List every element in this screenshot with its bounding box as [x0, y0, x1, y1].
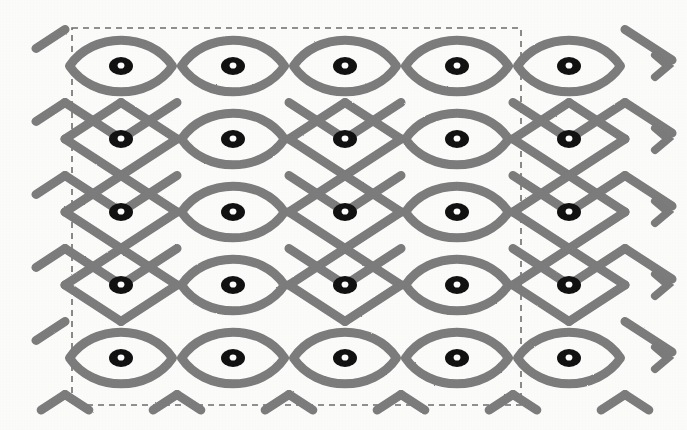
dot-inner-highlight: [454, 62, 461, 68]
dot-inner-highlight: [118, 208, 125, 214]
dot-inner-highlight: [230, 208, 237, 214]
kolam-dot: [557, 130, 581, 148]
kolam-diagram-svg: [0, 0, 687, 430]
kolam-dot: [109, 276, 133, 294]
kolam-dot: [333, 349, 357, 367]
kolam-dot: [221, 130, 245, 148]
kolam-dot: [445, 57, 469, 75]
kolam-dot: [557, 276, 581, 294]
dot-inner-highlight: [454, 354, 461, 360]
dot-inner-highlight: [230, 281, 237, 287]
dot-inner-highlight: [454, 208, 461, 214]
kolam-dot: [445, 276, 469, 294]
kolam-dot: [221, 57, 245, 75]
kolam-dot: [333, 276, 357, 294]
kolam-dot: [557, 349, 581, 367]
dot-inner-highlight: [342, 62, 349, 68]
dot-inner-highlight: [118, 135, 125, 141]
dot-inner-highlight: [230, 62, 237, 68]
kolam-dot: [221, 203, 245, 221]
dot-inner-highlight: [566, 135, 573, 141]
kolam-dot: [333, 57, 357, 75]
kolam-dot: [221, 349, 245, 367]
dot-inner-highlight: [118, 354, 125, 360]
dot-inner-highlight: [566, 208, 573, 214]
kolam-dot: [445, 130, 469, 148]
kolam-dot: [557, 203, 581, 221]
dot-inner-highlight: [454, 135, 461, 141]
dot-inner-highlight: [230, 354, 237, 360]
dot-inner-highlight: [342, 354, 349, 360]
kolam-dot: [109, 57, 133, 75]
kolam-dot: [221, 276, 245, 294]
kolam-dot: [333, 130, 357, 148]
kolam-figure: [0, 0, 687, 430]
kolam-dot: [445, 349, 469, 367]
dot-inner-highlight: [566, 62, 573, 68]
dot-inner-highlight: [454, 281, 461, 287]
kolam-dot: [333, 203, 357, 221]
dot-inner-highlight: [342, 208, 349, 214]
kolam-dot: [445, 203, 469, 221]
dot-inner-highlight: [118, 281, 125, 287]
kolam-dot: [109, 349, 133, 367]
kolam-dot: [109, 130, 133, 148]
dot-inner-highlight: [230, 135, 237, 141]
dot-inner-highlight: [566, 281, 573, 287]
kolam-dot: [109, 203, 133, 221]
dot-inner-highlight: [342, 135, 349, 141]
dot-inner-highlight: [342, 281, 349, 287]
dot-inner-highlight: [118, 62, 125, 68]
dot-inner-highlight: [566, 354, 573, 360]
kolam-dot: [557, 57, 581, 75]
